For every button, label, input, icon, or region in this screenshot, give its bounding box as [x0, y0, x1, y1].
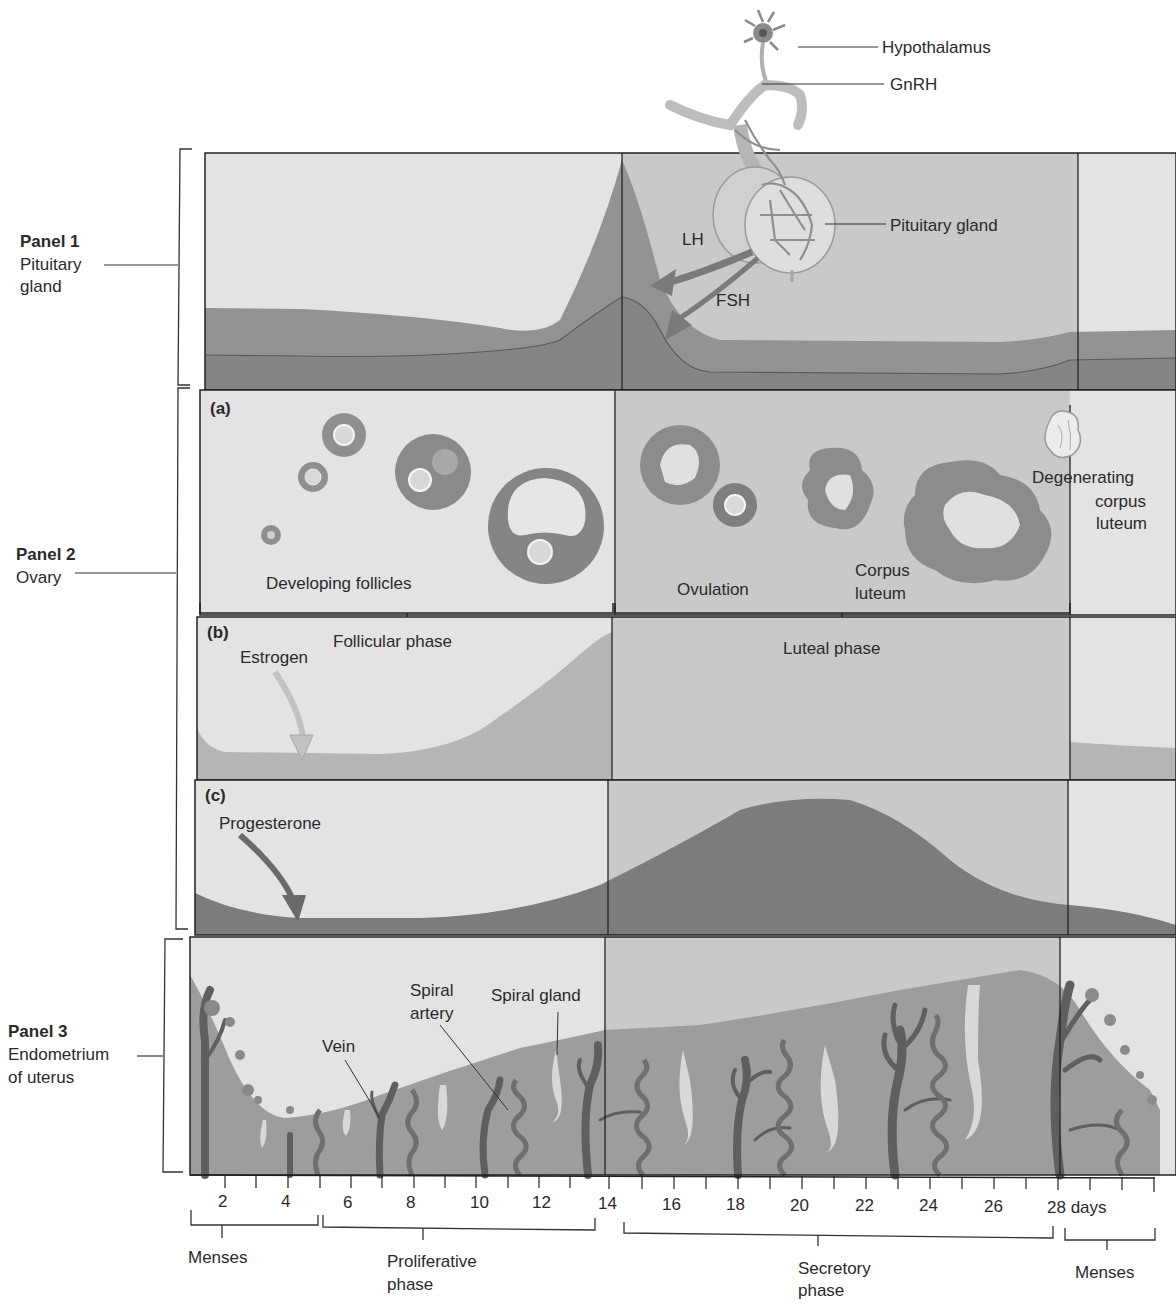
label-proliferative: Proliferative	[387, 1252, 477, 1271]
label-hypothalamus: Hypothalamus	[882, 38, 991, 57]
tick-20: 20	[790, 1196, 809, 1215]
label-estrogen: Estrogen	[240, 648, 308, 667]
tick-28-days: 28 days	[1047, 1198, 1107, 1217]
label-spiral-gland: Spiral gland	[491, 986, 581, 1005]
label-gnrh: GnRH	[890, 75, 937, 94]
label-secretory: Secretory	[798, 1259, 871, 1278]
label-secretory-2: phase	[798, 1281, 844, 1300]
label-developing-follicles: Developing follicles	[266, 574, 412, 593]
tick-6: 6	[343, 1193, 352, 1212]
panel2-subtitle: Ovary	[16, 568, 62, 587]
panel2-title: Panel 2	[16, 545, 76, 564]
label-corpus-luteum-2: luteum	[855, 584, 906, 603]
day-axis: 2 4 6 8 10 12 14 16 18 20 22 24 26 28 da…	[190, 1175, 1155, 1217]
label-degenerating-3: luteum	[1096, 514, 1147, 533]
label-corpus-luteum: Corpus	[855, 561, 910, 580]
menstrual-cycle-diagram: Hypothalamus GnRH Pituitary gland LH FSH…	[0, 0, 1176, 1316]
label-section-a: (a)	[210, 399, 231, 418]
label-spiral-artery: Spiral	[410, 981, 453, 1000]
panel3-subtitle: Endometrium	[8, 1045, 109, 1064]
label-luteal-phase: Luteal phase	[783, 639, 880, 658]
label-lh: LH	[682, 230, 704, 249]
degenerating-corpus-luteum-icon	[1045, 411, 1080, 458]
tick-12: 12	[532, 1193, 551, 1212]
label-menses-end: Menses	[1075, 1263, 1135, 1282]
label-proliferative-2: phase	[387, 1275, 433, 1294]
hypothalamus-neuron-icon	[744, 10, 785, 85]
panel3-subtitle-2: of uterus	[8, 1068, 74, 1087]
tick-8: 8	[406, 1193, 415, 1212]
panel1-chart	[205, 153, 1176, 390]
tick-26: 26	[984, 1197, 1003, 1216]
panel2-label: Panel 2 Ovary	[16, 388, 190, 929]
tick-14: 14	[598, 1194, 617, 1213]
label-menses-start: Menses	[188, 1248, 248, 1267]
panel2b-estrogen: (b) Follicular phase Luteal phase Estrog…	[197, 617, 1176, 780]
panel3-title: Panel 3	[8, 1022, 68, 1041]
tick-4: 4	[281, 1192, 290, 1211]
label-follicular-phase: Follicular phase	[333, 632, 452, 651]
label-section-c: (c)	[205, 786, 226, 805]
label-pituitary-gland: Pituitary gland	[890, 216, 998, 235]
tick-22: 22	[855, 1196, 874, 1215]
label-progesterone: Progesterone	[219, 814, 321, 833]
label-degenerating: Degenerating	[1032, 468, 1134, 487]
panel2a-ovary: (a) Developing follicles Ovulation	[200, 390, 1176, 615]
label-spiral-artery-2: artery	[410, 1004, 454, 1023]
tick-2: 2	[218, 1192, 227, 1211]
panel1-subtitle: Pituitary	[20, 255, 82, 274]
label-ovulation: Ovulation	[677, 580, 749, 599]
panel1-label: Panel 1 Pituitary gland	[20, 149, 192, 385]
phase-brackets	[191, 1210, 1155, 1250]
tick-10: 10	[470, 1193, 489, 1212]
panel1-subtitle-2: gland	[20, 277, 62, 296]
tick-18: 18	[726, 1195, 745, 1214]
panel3-label: Panel 3 Endometrium of uterus	[8, 939, 183, 1172]
panel1-title: Panel 1	[20, 232, 80, 251]
panel3-endometrium: Spiral artery Spiral gland Vein	[190, 937, 1176, 1175]
label-vein: Vein	[322, 1037, 355, 1056]
label-fsh: FSH	[716, 291, 750, 310]
label-section-b: (b)	[207, 623, 229, 642]
tick-24: 24	[919, 1196, 938, 1215]
tick-16: 16	[662, 1195, 681, 1214]
label-degenerating-2: corpus	[1095, 492, 1146, 511]
panel2c-progesterone: (c) Progesterone	[195, 780, 1176, 935]
